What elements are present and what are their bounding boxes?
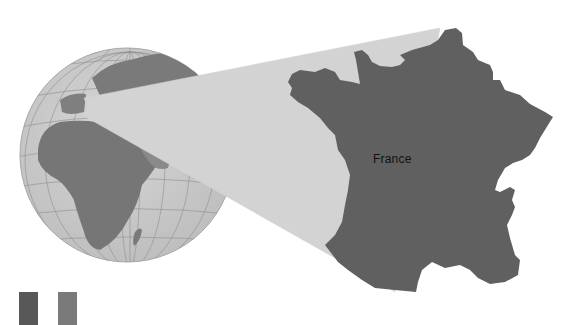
locator-map <box>0 0 576 325</box>
flag-stripe-middle <box>38 292 57 325</box>
flag-stripe-right <box>58 292 77 325</box>
flag-stripe-left <box>19 292 38 325</box>
country-label: France <box>373 152 412 166</box>
french-flag <box>19 292 77 325</box>
